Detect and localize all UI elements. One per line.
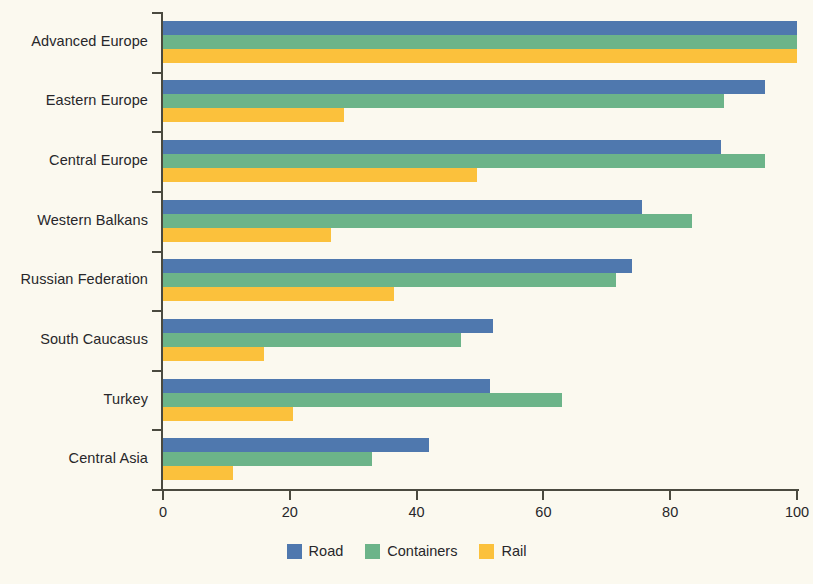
bar-containers-2 — [163, 154, 765, 168]
bar-containers-3 — [163, 214, 692, 228]
y-axis-label-2: Central Europe — [0, 152, 148, 168]
legend-item-containers[interactable]: Containers — [365, 543, 457, 559]
x-axis-label-1: 20 — [282, 504, 298, 520]
x-axis-tick-0 — [162, 489, 164, 500]
x-axis-tick-3 — [542, 489, 544, 500]
legend-label-road: Road — [309, 543, 344, 559]
y-axis-tick-1 — [152, 72, 163, 74]
bar-rail-4 — [163, 287, 394, 301]
x-axis-tick-4 — [669, 489, 671, 500]
x-axis-line — [161, 489, 799, 491]
bar-group — [163, 131, 797, 191]
bar-rail-7 — [163, 466, 233, 480]
y-axis-tick-3 — [152, 191, 163, 193]
bar-rail-6 — [163, 407, 293, 421]
bar-rail-3 — [163, 228, 331, 242]
bar-rail-1 — [163, 108, 344, 122]
legend-label-rail: Rail — [501, 543, 526, 559]
legend-label-containers: Containers — [387, 543, 457, 559]
chart-legend: RoadContainersRail — [0, 543, 813, 559]
bar-road-6 — [163, 379, 490, 393]
y-axis-label-0: Advanced Europe — [0, 33, 148, 49]
bar-group — [163, 191, 797, 251]
legend-swatch-road-icon — [287, 544, 302, 559]
legend-swatch-rail-icon — [479, 544, 494, 559]
bar-rail-0 — [163, 49, 797, 63]
y-axis-label-3: Western Balkans — [0, 212, 148, 228]
bar-road-5 — [163, 319, 493, 333]
bar-group — [163, 310, 797, 370]
x-axis-tick-2 — [416, 489, 418, 500]
bar-containers-7 — [163, 452, 372, 466]
y-axis-label-6: Turkey — [0, 391, 148, 407]
y-axis-label-7: Central Asia — [0, 450, 148, 466]
bar-group — [163, 72, 797, 132]
legend-item-rail[interactable]: Rail — [479, 543, 526, 559]
bar-containers-5 — [163, 333, 461, 347]
x-axis-label-3: 60 — [535, 504, 551, 520]
bar-rail-2 — [163, 168, 477, 182]
bar-road-7 — [163, 438, 429, 452]
y-axis-label-1: Eastern Europe — [0, 92, 148, 108]
x-axis-label-5: 100 — [785, 504, 809, 520]
x-axis-label-4: 80 — [662, 504, 678, 520]
x-axis-tick-5 — [796, 489, 798, 500]
y-axis-tick-0 — [152, 12, 163, 14]
y-axis-label-5: South Caucasus — [0, 331, 148, 347]
x-axis-label-0: 0 — [159, 504, 167, 520]
bar-chart: Advanced EuropeEastern EuropeCentral Eur… — [0, 0, 813, 584]
bar-group — [163, 251, 797, 311]
y-axis-label-4: Russian Federation — [0, 271, 148, 287]
bar-road-3 — [163, 200, 642, 214]
x-axis-label-2: 40 — [409, 504, 425, 520]
bar-road-1 — [163, 80, 765, 94]
legend-swatch-containers-icon — [365, 544, 380, 559]
y-axis-tick-2 — [152, 131, 163, 133]
bar-group — [163, 429, 797, 489]
y-axis-tick-5 — [152, 310, 163, 312]
bar-containers-4 — [163, 273, 616, 287]
bar-group — [163, 12, 797, 72]
bar-road-2 — [163, 140, 721, 154]
bar-containers-6 — [163, 393, 562, 407]
y-axis-tick-7 — [152, 429, 163, 431]
bar-road-0 — [163, 21, 797, 35]
bar-containers-0 — [163, 35, 797, 49]
x-axis-tick-1 — [289, 489, 291, 500]
bar-containers-1 — [163, 94, 724, 108]
bar-rail-5 — [163, 347, 264, 361]
y-axis-tick-4 — [152, 251, 163, 253]
y-axis-tick-6 — [152, 370, 163, 372]
plot-area — [163, 12, 797, 489]
legend-item-road[interactable]: Road — [287, 543, 344, 559]
bar-road-4 — [163, 259, 632, 273]
bar-group — [163, 370, 797, 430]
